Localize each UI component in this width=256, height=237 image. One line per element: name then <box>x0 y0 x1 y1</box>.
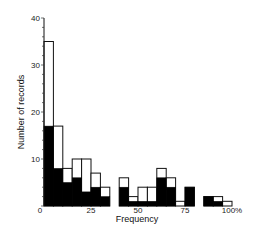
y-tick-label: 30 <box>31 61 40 70</box>
subset-bar <box>204 197 213 206</box>
subset-bar <box>147 201 156 206</box>
subset-bar <box>53 168 62 206</box>
y-axis-title: Number of records <box>16 74 26 149</box>
subset-bar <box>63 183 72 207</box>
subset-bar <box>157 178 166 206</box>
histogram-chart: 10203040 0255075100% Frequency Number of… <box>0 0 256 237</box>
x-axis-title: Frequency <box>116 214 159 224</box>
plot-area <box>44 42 232 207</box>
y-tick-label: 20 <box>31 108 40 117</box>
y-axis: 10203040 <box>31 14 44 206</box>
x-tick-label: 25 <box>87 206 96 215</box>
x-tick-label: 75 <box>181 206 190 215</box>
subset-bar <box>119 187 128 206</box>
subset-bar <box>44 126 53 206</box>
subset-bar <box>100 197 109 206</box>
subset-bar <box>82 192 91 206</box>
subset-bar <box>185 187 194 206</box>
subset-bar <box>166 187 175 206</box>
subset-bar <box>91 187 100 206</box>
x-tick-label: 100% <box>222 206 242 215</box>
subset-bar <box>72 178 81 206</box>
x-tick-label: 0 <box>38 206 43 215</box>
y-tick-label: 10 <box>31 155 40 164</box>
y-tick-label: 40 <box>31 14 40 23</box>
